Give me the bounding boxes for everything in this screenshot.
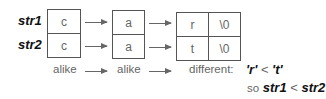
arrow-icon bbox=[149, 23, 171, 24]
label-str1: str1 bbox=[18, 13, 42, 28]
comparison-right: 't' bbox=[272, 62, 283, 77]
comparison-op: < bbox=[261, 62, 269, 77]
cell-str2-char2: t bbox=[176, 36, 209, 61]
cell-str1-char0: c bbox=[47, 9, 81, 34]
cell-str1-char2: r bbox=[176, 12, 209, 37]
so-word: so bbox=[247, 82, 259, 94]
arrow-icon bbox=[149, 71, 171, 72]
arrow-icon bbox=[85, 46, 107, 47]
string-result: so str1 < str2 bbox=[247, 80, 325, 95]
result-op: < bbox=[290, 80, 298, 95]
label-str2: str2 bbox=[18, 37, 42, 52]
arrow-icon bbox=[85, 71, 107, 72]
status-col3: different: bbox=[189, 63, 234, 75]
status-col2: alike bbox=[117, 63, 141, 75]
status-col1: alike bbox=[53, 63, 77, 75]
cell-str1-terminator: \0 bbox=[208, 12, 241, 37]
comparison-left: 'r' bbox=[246, 62, 257, 77]
cell-str1-char1: a bbox=[112, 10, 145, 35]
arrow-icon bbox=[149, 47, 171, 48]
cell-str2-terminator: \0 bbox=[208, 36, 241, 61]
cell-str2-char1: a bbox=[112, 34, 145, 59]
cell-str2-char0: c bbox=[47, 33, 81, 58]
char-comparison: 'r' < 't' bbox=[246, 62, 283, 77]
arrow-icon bbox=[85, 22, 107, 23]
result-right: str2 bbox=[301, 80, 325, 95]
result-left: str1 bbox=[263, 80, 287, 95]
